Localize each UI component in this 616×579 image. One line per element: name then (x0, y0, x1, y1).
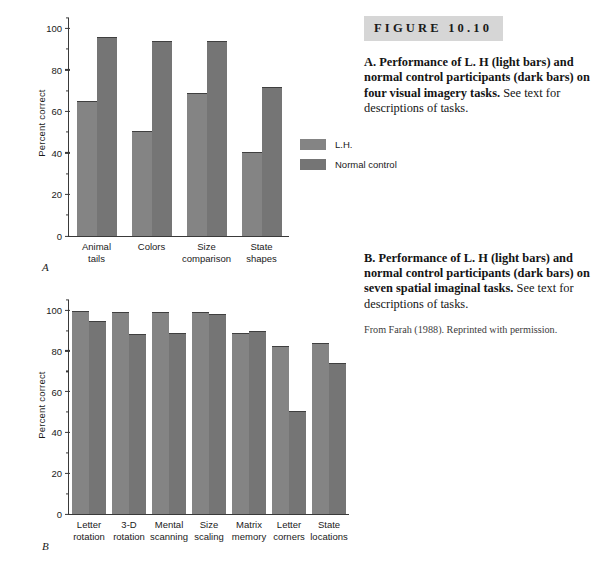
y-axis-tick-label: 80 (51, 64, 69, 75)
bar-group: Lettercorners (269, 300, 309, 514)
bar (169, 333, 186, 514)
plot-wrapper-a: Percent correct AnimaltailsColorsSizecom… (0, 18, 350, 286)
y-axis-minor-tick (66, 173, 70, 174)
charts-column: Percent correct AnimaltailsColorsSizecom… (0, 0, 350, 579)
bar (72, 311, 89, 514)
x-axis-tick-label: Stateshapes (246, 241, 277, 264)
bar (97, 37, 117, 236)
x-axis-tick-label-line: Size (182, 241, 231, 253)
x-axis-tick-label-line: tails (82, 253, 111, 265)
x-axis-tick-label-line: scaling (194, 531, 224, 543)
bar (272, 346, 289, 514)
bar (152, 312, 169, 514)
bar (152, 41, 172, 236)
x-axis-tick-label: Animaltails (82, 241, 111, 264)
panel-letter-b: B (42, 540, 49, 552)
bar-group: Colors (124, 18, 179, 236)
bar (232, 333, 249, 514)
bar-group: Sizecomparison (179, 18, 234, 236)
x-axis-tick-label-line: Mental (150, 519, 188, 531)
bar (209, 314, 226, 514)
y-axis-tick-label: 80 (51, 345, 69, 356)
x-axis-tick-label-line: State (246, 241, 277, 253)
y-axis-tick-label: 40 (51, 427, 69, 438)
y-axis-tick-label: 0 (57, 231, 69, 242)
y-axis-minor-tick (66, 330, 70, 331)
x-axis-tick-label-line: shapes (246, 253, 277, 265)
bar-group: Mentalscanning (149, 300, 189, 514)
y-axis-minor-tick (66, 132, 70, 133)
x-axis-tick-label: Mentalscanning (150, 519, 188, 542)
bar (129, 334, 146, 514)
bar-group: Animaltails (69, 18, 124, 236)
bar (312, 343, 329, 514)
y-axis-minor-tick (66, 49, 70, 50)
x-axis-tick-label: Sizescaling (194, 519, 224, 542)
x-axis-tick-label-line: memory (232, 531, 266, 543)
x-axis-tick-label-line: comparison (182, 253, 231, 265)
legend-label: L.H. (335, 139, 352, 150)
x-axis-tick-label: Statelocations (310, 519, 348, 542)
bar (89, 321, 106, 514)
x-axis-tick-label: Sizecomparison (182, 241, 231, 264)
x-axis-tick-label-line: State (310, 519, 348, 531)
y-axis-minor-tick (66, 17, 70, 18)
x-axis-tick-label-line: Matrix (232, 519, 266, 531)
bar (262, 87, 282, 236)
bar (329, 363, 346, 514)
x-axis-tick-label-line: Colors (138, 241, 165, 253)
figure-credit: From Farah (1988). Reprinted with permis… (364, 323, 610, 336)
y-axis-minor-tick (66, 493, 70, 494)
y-axis-label-b: Percent correct (36, 371, 47, 438)
bar (289, 411, 306, 514)
bar-group: 3-Drotation (109, 300, 149, 514)
y-axis-minor-tick (66, 215, 70, 216)
bar (242, 152, 262, 236)
chart-panel-a: Percent correct AnimaltailsColorsSizecom… (0, 18, 350, 286)
bar (77, 101, 97, 236)
chart-panel-b: Percent correct Letterrotation3-Drotatio… (0, 300, 350, 570)
bar-group: Letterrotation (69, 300, 109, 514)
bar-group: Matrixmemory (229, 300, 269, 514)
plot-area-b: Letterrotation3-DrotationMentalscanningS… (68, 300, 349, 515)
legend-swatch (300, 139, 326, 150)
bar-group: Sizescaling (189, 300, 229, 514)
caption-b: B. Performance of L. H (light bars) and … (364, 251, 610, 313)
bar-groups-a: AnimaltailsColorsSizecomparisonStateshap… (69, 18, 289, 236)
y-axis-minor-tick (66, 412, 70, 413)
y-axis-minor-tick (66, 452, 70, 453)
x-axis-tick-label-line: rotation (73, 531, 105, 543)
y-axis-tick-label: 40 (51, 147, 69, 158)
x-axis-tick-label-line: 3-D (113, 519, 145, 531)
x-axis-tick-label-line: Letter (273, 519, 305, 531)
bar (207, 41, 227, 236)
bar-groups-b: Letterrotation3-DrotationMentalscanningS… (69, 300, 349, 514)
x-axis-tick-label: 3-Drotation (113, 519, 145, 542)
y-axis-label-a: Percent correct (36, 89, 47, 156)
x-axis-tick-label-line: corners (273, 531, 305, 543)
panel-letter-a: A (42, 261, 49, 273)
x-axis-tick-label: Colors (138, 241, 165, 253)
y-axis-minor-tick (66, 90, 70, 91)
y-axis-tick-label: 20 (51, 189, 69, 200)
bar (249, 331, 266, 514)
y-axis-tick-label: 100 (46, 305, 69, 316)
legend-swatch (300, 159, 326, 170)
plot-area-a: AnimaltailsColorsSizecomparisonStateshap… (68, 18, 289, 237)
x-axis-tick-label-line: Size (194, 519, 224, 531)
y-axis-tick-label: 100 (46, 23, 69, 34)
y-axis-tick-label: 0 (57, 509, 69, 520)
x-axis-tick-label-line: scanning (150, 531, 188, 543)
bar (192, 312, 209, 514)
bar (112, 312, 129, 514)
y-axis-tick-label: 20 (51, 468, 69, 479)
x-axis-tick-label: Letterrotation (73, 519, 105, 542)
y-axis-tick-label: 60 (51, 106, 69, 117)
y-axis-tick-label: 60 (51, 386, 69, 397)
y-axis-minor-tick (66, 299, 70, 300)
x-axis-tick-label: Matrixmemory (232, 519, 266, 542)
x-axis-tick-label-line: Animal (82, 241, 111, 253)
bar-group: Stateshapes (234, 18, 289, 236)
caption-a: A. Performance of L. H (light bars) and … (364, 55, 610, 117)
figure-page: { "figure": { "banner_label": "FIGURE 10… (0, 0, 616, 579)
